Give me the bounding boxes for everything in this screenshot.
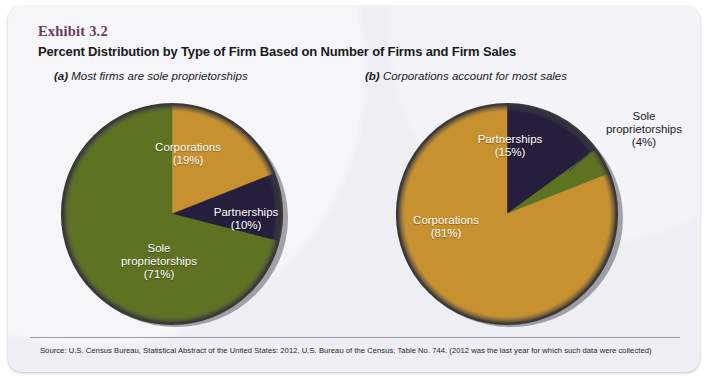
pie-b-label-sole-proprietorships: Sole proprietorships (4%) [586,110,700,149]
panel-a-tag: (a) [54,70,68,82]
source-note: Source: U.S. Census Bureau, Statistical … [40,346,652,355]
panel-b-tag: (b) [365,70,380,82]
panel-a-caption: (a) Most firms are sole proprietorships [54,70,248,82]
panel-b-caption: (b) Corporations account for most sales [365,70,567,82]
source-divider [30,337,680,338]
pie-a-rim [62,104,282,324]
pie-b-label-sole-value: (4%) [586,136,700,149]
pie-b-rim [397,104,617,324]
panel-b-caption-text: Corporations account for most sales [383,70,567,82]
pie-chart-panel-a [56,102,288,328]
pie-b-label-sole-line1: Sole [586,110,700,123]
pie-a-svg [56,102,288,328]
exhibit-number-label: Exhibit 3.2 [38,23,108,40]
pie-b-label-sole-line2: proprietorships [586,123,700,136]
exhibit-title: Percent Distribution by Type of Firm Bas… [38,44,516,59]
exhibit-card: Exhibit 3.2 Percent Distribution by Type… [8,6,700,372]
panel-a-caption-text: Most firms are sole proprietorships [71,70,247,82]
